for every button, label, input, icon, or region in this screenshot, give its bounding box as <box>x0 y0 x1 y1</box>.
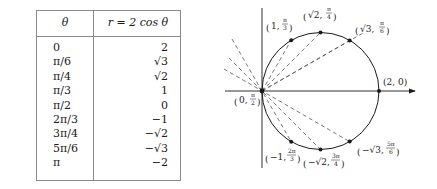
label-sqrt2-pi4: ( √2, π 4 ) <box>303 5 337 22</box>
point-0-pi2 <box>260 89 265 94</box>
svg-text:4: 4 <box>327 13 331 20</box>
svg-text:(: ( <box>234 97 238 107</box>
svg-text:): ) <box>289 23 293 33</box>
svg-text:(: ( <box>357 147 361 157</box>
label-1-pi3: ( 1, π 3 ) <box>266 16 293 33</box>
svg-text:): ) <box>341 159 345 169</box>
svg-text:4: 4 <box>334 160 338 167</box>
label-2-0: (2, 0) <box>383 77 407 87</box>
svg-text:(: ( <box>355 26 359 36</box>
svg-text:π: π <box>380 19 384 26</box>
svg-text:√3,: √3, <box>360 24 374 34</box>
point-sqrt2-pi4 <box>319 31 323 35</box>
svg-text:3: 3 <box>290 155 294 162</box>
point-negsqrt2-3pi4 <box>319 148 323 152</box>
point-neg1-2pi3 <box>289 140 293 144</box>
svg-text:1,: 1, <box>271 21 280 31</box>
svg-text:6: 6 <box>380 27 384 34</box>
svg-text:): ) <box>386 26 390 36</box>
svg-text:−1,: −1, <box>270 152 286 162</box>
svg-text:2π: 2π <box>288 147 296 154</box>
svg-text:π: π <box>283 16 287 23</box>
svg-text:2: 2 <box>251 99 255 106</box>
point-negsqrt3-5pi6 <box>348 140 352 144</box>
svg-text:): ) <box>333 12 337 22</box>
svg-text:): ) <box>297 154 301 164</box>
svg-text:π: π <box>251 91 255 98</box>
svg-text:): ) <box>257 97 261 107</box>
svg-text:√2,: √2, <box>308 10 322 20</box>
svg-text:3π: 3π <box>332 152 340 159</box>
svg-text:6: 6 <box>389 148 393 155</box>
label-sqrt3-pi6: ( √3, π 6 ) <box>355 19 390 36</box>
polar-graph: (2, 0) ( 1, π 3 ) ( √2, π 4 ) ( √3, π 6 … <box>0 0 437 189</box>
point-2-0 <box>377 89 381 93</box>
svg-text:(: ( <box>265 154 269 164</box>
svg-text:(: ( <box>266 23 270 33</box>
svg-text:(: ( <box>303 12 307 22</box>
label-neg1-2pi3: ( −1, 2π 3 ) <box>265 147 301 164</box>
label-negsqrt2-3pi4: ( −√2, 3π 4 ) <box>303 152 345 169</box>
svg-text:0,: 0, <box>239 95 248 105</box>
label-0-pi2: ( 0, π 2 ) <box>234 91 261 107</box>
label-negsqrt3-5pi6: ( −√3, 5π 6 ) <box>357 140 400 157</box>
point-sqrt3-pi6 <box>348 38 352 42</box>
svg-text:−√3,: −√3, <box>362 145 384 155</box>
point-1-pi3 <box>289 38 293 42</box>
svg-text:(: ( <box>303 159 307 169</box>
svg-text:): ) <box>396 147 400 157</box>
svg-text:5π: 5π <box>387 140 395 147</box>
svg-text:−√2,: −√2, <box>308 157 330 167</box>
svg-text:π: π <box>327 5 331 12</box>
svg-text:3: 3 <box>283 24 287 31</box>
